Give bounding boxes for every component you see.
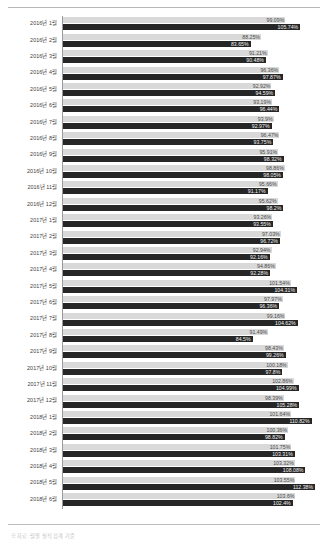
footer-divider xyxy=(8,524,320,525)
chart-row: 2016년 11월95.66%91.17% xyxy=(0,180,328,196)
bar-value-label: 102.4% xyxy=(63,500,291,506)
chart-row: 2016년 3월91.21%90.48% xyxy=(0,49,328,65)
bar-value-label: 99.26% xyxy=(63,352,284,358)
category-label: 2017년 5월 xyxy=(0,282,57,291)
category-label: 2017년 10월 xyxy=(0,364,57,373)
chart-row: 2018년 5월103.55%112.38% xyxy=(0,475,328,491)
category-label: 2016년 8월 xyxy=(0,134,57,143)
bar-chart: 2016년 1월99.09%105.74%2016년 2월88.25%83.65… xyxy=(0,16,328,512)
bar-value-label: 98.2% xyxy=(63,205,281,211)
category-label: 2016년 2월 xyxy=(0,36,57,45)
bar-value-label: 96.44% xyxy=(63,106,277,112)
bar-group: 95.62%98.2% xyxy=(63,196,328,212)
category-label: 2018년 1월 xyxy=(0,413,57,422)
bar-value-label: 101.54% xyxy=(63,280,290,286)
chart-row: 2016년 12월95.62%98.2% xyxy=(0,196,328,212)
bar-value-label: 91.21% xyxy=(63,50,267,56)
bar-value-label: 92.97% xyxy=(63,123,270,129)
category-label: 2016년 7월 xyxy=(0,118,57,127)
category-label: 2018년 5월 xyxy=(0,478,57,487)
bar-group: 100.36%98.82% xyxy=(63,426,328,442)
chart-row: 2016년 7월93.9%92.97% xyxy=(0,114,328,130)
bar-value-label: 112.38% xyxy=(63,484,313,490)
bar-group: 95.91%98.32% xyxy=(63,147,328,163)
bar-value-label: 104.62% xyxy=(63,320,296,326)
chart-row: 2018년 4월103.32%108.08% xyxy=(0,459,328,475)
category-label: 2017년 7월 xyxy=(0,314,57,323)
category-label: 2017년 12월 xyxy=(0,396,57,405)
bar-value-label: 100.18% xyxy=(63,362,287,368)
bar-value-label: 103.55% xyxy=(63,477,294,483)
chart-row: 2016년 5월92.92%94.59% xyxy=(0,82,328,98)
chart-row: 2017년 9월98.43%99.26% xyxy=(0,344,328,360)
bar-value-label: 93.75% xyxy=(63,139,271,145)
bar-value-label: 93.9% xyxy=(63,116,273,122)
bar-value-label: 102.86% xyxy=(63,378,293,384)
bar-value-label: 90.48% xyxy=(63,57,264,63)
footer-legend: ※ 자료: 월별 실적 집계 기준 xyxy=(11,530,211,542)
chart-row: 2017년 6월97.97%96.36% xyxy=(0,295,328,311)
bar-group: 103.6%102.4% xyxy=(63,492,328,508)
bar-value-label: 94.59% xyxy=(63,90,273,96)
bar-value-label: 96.72% xyxy=(63,238,278,244)
bar-group: 91.49%84.5% xyxy=(63,328,328,344)
category-label: 2018년 4월 xyxy=(0,462,57,471)
chart-row: 2016년 1월99.09%105.74% xyxy=(0,16,328,32)
category-label: 2016년 10월 xyxy=(0,167,57,176)
chart-row: 2016년 6월93.19%96.44% xyxy=(0,98,328,114)
bar-value-label: 103.32% xyxy=(63,460,294,466)
bar-value-label: 108.08% xyxy=(63,467,303,473)
category-label: 2016년 3월 xyxy=(0,52,57,61)
bar-value-label: 103.6% xyxy=(63,493,294,499)
bar-value-label: 88.25% xyxy=(63,34,260,40)
bar-group: 102.86%104.99% xyxy=(63,377,328,393)
bar-group: 96.47%93.75% xyxy=(63,131,328,147)
bar-group: 93.9%92.97% xyxy=(63,114,328,130)
category-label: 2016년 11월 xyxy=(0,183,57,192)
bar-value-label: 98.39% xyxy=(63,395,283,401)
top-divider xyxy=(8,7,320,8)
category-label: 2018년 3월 xyxy=(0,446,57,455)
bar-group: 103.55%112.38% xyxy=(63,475,328,491)
chart-row: 2018년 2월100.36%98.82% xyxy=(0,426,328,442)
bar-value-label: 98.32% xyxy=(63,156,282,162)
category-label: 2016년 12월 xyxy=(0,200,57,209)
chart-row: 2018년 3월101.75%103.31% xyxy=(0,442,328,458)
bar-value-label: 92.94% xyxy=(63,247,271,253)
bar-value-label: 91.49% xyxy=(63,329,267,335)
category-label: 2016년 5월 xyxy=(0,85,57,94)
category-label: 2016년 9월 xyxy=(0,150,57,159)
category-label: 2018년 2월 xyxy=(0,429,57,438)
bar-value-label: 95.66% xyxy=(63,181,277,187)
bar-group: 95.66%91.17% xyxy=(63,180,328,196)
bar-group: 93.19%96.44% xyxy=(63,98,328,114)
chart-row: 2017년 11월102.86%104.99% xyxy=(0,377,328,393)
bar-group: 98.39%105.28% xyxy=(63,393,328,409)
category-label: 2017년 6월 xyxy=(0,298,57,307)
bar-value-label: 98.05% xyxy=(63,172,281,178)
category-label: 2016년 1월 xyxy=(0,19,57,28)
chart-row: 2017년 12월98.39%105.28% xyxy=(0,393,328,409)
bar-value-label: 101.75% xyxy=(63,444,290,450)
chart-row: 2016년 9월95.91%98.32% xyxy=(0,147,328,163)
bar-group: 97.97%96.36% xyxy=(63,295,328,311)
chart-row: 2016년 10월98.86%98.05% xyxy=(0,164,328,180)
bar-group: 94.86%92.28% xyxy=(63,262,328,278)
bar-group: 101.54%104.31% xyxy=(63,278,328,294)
bar-group: 93.26%93.55% xyxy=(63,213,328,229)
chart-row: 2016년 8월96.47%93.75% xyxy=(0,131,328,147)
bar-value-label: 97.8% xyxy=(63,369,280,375)
chart-row: 2017년 1월93.26%93.55% xyxy=(0,213,328,229)
bar-value-label: 99.16% xyxy=(63,313,284,319)
bar-value-label: 100.36% xyxy=(63,427,287,433)
bar-value-label: 93.19% xyxy=(63,99,271,105)
bar-value-label: 83.65% xyxy=(63,41,249,47)
bar-value-label: 98.43% xyxy=(63,345,283,351)
chart-row: 2017년 3월92.94%92.16% xyxy=(0,246,328,262)
bar-value-label: 97.87% xyxy=(63,74,281,80)
bar-group: 92.94%92.16% xyxy=(63,246,328,262)
bar-group: 91.21%90.48% xyxy=(63,49,328,65)
bar-value-label: 103.31% xyxy=(63,451,293,457)
bar-value-label: 105.74% xyxy=(63,24,298,30)
bar-value-label: 93.55% xyxy=(63,221,271,227)
